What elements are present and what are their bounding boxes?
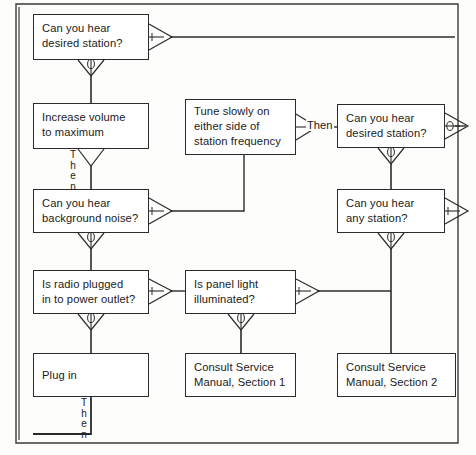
then-letter: T <box>79 398 89 409</box>
node-line: either side of <box>194 119 295 134</box>
node-plug-in[interactable]: Plug in <box>33 353 149 397</box>
node-can-you-hear-background-noise[interactable]: Can you hear background noise? <box>33 189 149 233</box>
flowchart-canvas: Can you hear desired station? Increase v… <box>0 0 476 455</box>
node-can-you-hear-desired-station-1[interactable]: Can you hear desired station? <box>33 14 149 60</box>
node-consult-service-manual-section-1[interactable]: Consult Service Manual, Section 1 <box>185 353 296 397</box>
node-line: Consult Service <box>346 360 455 375</box>
edge-panel-light-no <box>228 310 254 353</box>
node-can-you-hear-desired-station-2[interactable]: Can you hear desired station? <box>337 104 445 148</box>
node-line: Consult Service <box>194 360 295 375</box>
node-line: to maximum <box>42 125 148 140</box>
then-label-vertical-2: T h e n <box>79 398 89 440</box>
node-line: illuminated? <box>194 292 295 307</box>
node-line: Can you hear <box>346 111 444 126</box>
node-line: Is panel light <box>194 277 295 292</box>
edge-background-yes <box>170 155 244 211</box>
edge-increase-then <box>78 149 104 189</box>
edge-q2-no <box>378 144 404 189</box>
then-letter: T <box>68 150 78 161</box>
then-letter: e <box>79 419 89 430</box>
node-line: desired station? <box>346 126 444 141</box>
node-line: Increase volume <box>42 110 148 125</box>
then-label-vertical-1: T h e n <box>68 150 78 192</box>
edge-radio-plugged-yes <box>145 279 185 304</box>
edge-q1-no <box>78 56 104 103</box>
then-letter: e <box>68 171 78 182</box>
then-label-horizontal: Then <box>306 119 334 131</box>
edge-radio-plugged-no <box>78 310 104 353</box>
node-is-panel-light-illuminated[interactable]: Is panel light illuminated? <box>185 270 296 314</box>
node-line: desired station? <box>42 36 148 51</box>
yes-arrow-q1 <box>145 24 172 50</box>
node-is-radio-plugged-in[interactable]: Is radio plugged in to power outlet? <box>33 270 149 314</box>
edge-background-no <box>78 229 104 270</box>
node-line: Tune slowly on <box>194 104 295 119</box>
node-line: Manual, Section 2 <box>346 375 455 390</box>
node-line: in to power outlet? <box>42 292 148 307</box>
node-line: Can you hear <box>42 21 148 36</box>
edge-q2-yes <box>441 113 468 139</box>
edge-panel-light-yes <box>292 279 391 304</box>
then-letter: n <box>79 430 89 441</box>
node-line: Can you hear <box>42 196 148 211</box>
node-line: background noise? <box>42 211 148 226</box>
node-line: any station? <box>346 211 444 226</box>
node-line: Plug in <box>42 368 77 383</box>
node-can-you-hear-any-station[interactable]: Can you hear any station? <box>337 189 445 233</box>
node-line: station frequency <box>194 134 295 149</box>
then-letter: n <box>68 182 78 193</box>
node-line: Can you hear <box>346 196 444 211</box>
yes-arrow-background <box>145 198 172 224</box>
edge-any-station-yes <box>441 198 468 224</box>
node-line: Is radio plugged <box>42 277 148 292</box>
node-tune-slowly[interactable]: Tune slowly on either side of station fr… <box>185 99 296 155</box>
node-increase-volume-to-maximum[interactable]: Increase volume to maximum <box>33 103 149 149</box>
node-consult-service-manual-section-2[interactable]: Consult Service Manual, Section 2 <box>337 353 456 397</box>
node-line: Manual, Section 1 <box>194 375 295 390</box>
